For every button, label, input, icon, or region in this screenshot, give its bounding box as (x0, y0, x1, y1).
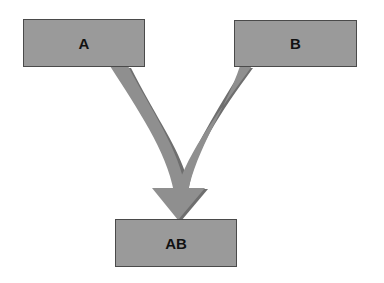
node-ab: AB (115, 219, 237, 267)
diagram-canvas: A B AB (0, 0, 384, 283)
node-ab-label: AB (165, 235, 187, 252)
node-a-label: A (79, 35, 90, 52)
node-b-label: B (290, 35, 301, 52)
node-a: A (23, 19, 145, 67)
node-b: B (234, 20, 357, 67)
